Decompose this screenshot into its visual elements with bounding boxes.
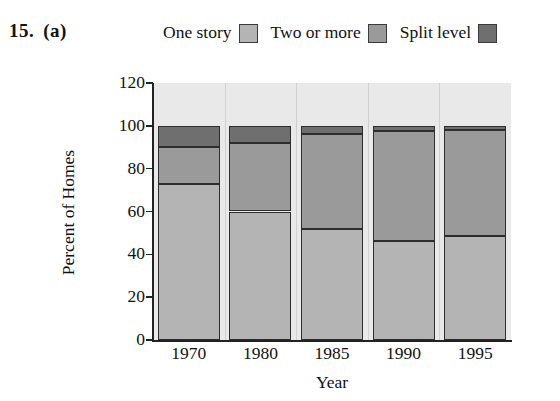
legend-item-two-or-more: Two or more xyxy=(271,24,387,43)
x-axis-tick-label: 1970 xyxy=(153,345,225,363)
segment-one-story xyxy=(301,229,363,340)
x-axis-tick-label: 1980 xyxy=(225,345,297,363)
legend-item-one-story: One story xyxy=(163,24,258,43)
segment-two-or-more xyxy=(444,130,506,236)
vertical-gridline xyxy=(439,83,440,340)
y-axis-tick-label: 20 xyxy=(0,288,154,306)
bar-1990 xyxy=(373,83,435,340)
y-axis-tick-label: 40 xyxy=(0,245,154,263)
bar-1995 xyxy=(444,83,506,340)
segment-split-level xyxy=(229,126,291,143)
segment-one-story xyxy=(444,236,506,340)
problem-part: (a) xyxy=(43,20,67,41)
segment-split-level xyxy=(444,126,506,130)
segment-two-or-more xyxy=(373,131,435,241)
segment-one-story xyxy=(373,241,435,340)
y-axis-tick-label: 100 xyxy=(0,117,154,135)
legend-swatch-one-story xyxy=(239,24,258,43)
x-axis-title: Year xyxy=(153,372,511,393)
legend-item-split-level: Split level xyxy=(400,24,497,43)
segment-two-or-more xyxy=(229,143,291,212)
y-axis-tick-label: 60 xyxy=(0,203,154,221)
segment-one-story xyxy=(158,184,220,340)
scan-bleed-artifact xyxy=(150,1,400,10)
chart-legend: One story Two or more Split level xyxy=(163,21,497,45)
legend-swatch-two-or-more xyxy=(368,24,387,43)
bar-1985 xyxy=(301,83,363,340)
segment-two-or-more xyxy=(301,134,363,228)
legend-label-split-level: Split level xyxy=(400,24,471,42)
y-axis-tick-label: 80 xyxy=(0,160,154,178)
segment-split-level xyxy=(301,126,363,135)
problem-label: 15.(a) xyxy=(9,20,67,42)
segment-split-level xyxy=(158,126,220,147)
bar-1970 xyxy=(158,83,220,340)
x-axis-tick-label: 1995 xyxy=(439,345,511,363)
segment-one-story xyxy=(229,212,291,341)
vertical-gridline xyxy=(225,83,226,340)
plot-area xyxy=(153,83,511,340)
vertical-gridline xyxy=(296,83,297,340)
problem-number: 15. xyxy=(9,20,34,41)
vertical-gridline xyxy=(368,83,369,340)
legend-swatch-split-level xyxy=(478,24,497,43)
y-axis-tick-label: 120 xyxy=(0,74,154,92)
segment-two-or-more xyxy=(158,147,220,183)
x-axis-tick-label: 1990 xyxy=(368,345,440,363)
segment-split-level xyxy=(373,126,435,131)
x-axis-tick-label: 1985 xyxy=(296,345,368,363)
y-axis-tick-label: 0 xyxy=(0,331,154,349)
stacked-bar-chart: Percent of Homes 020406080100120 1970198… xyxy=(0,52,560,401)
bar-1980 xyxy=(229,83,291,340)
x-axis-line xyxy=(152,340,512,342)
legend-label-one-story: One story xyxy=(163,24,232,42)
legend-label-two-or-more: Two or more xyxy=(271,24,361,42)
